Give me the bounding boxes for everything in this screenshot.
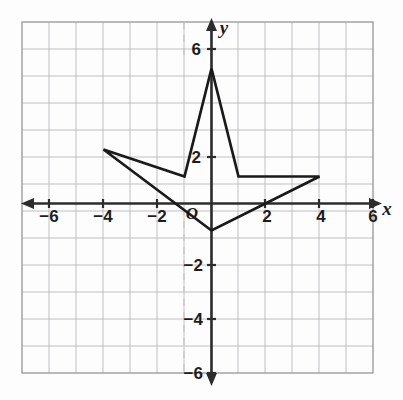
x-axis-tick-labels: −6 −4 −2 2 4 6 [39,207,377,226]
x-axis [21,198,382,209]
x-axis-arrow-left [21,198,34,209]
coordinate-plane-figure: −6 −4 −2 2 4 6 6 2 −2 −4 −6 x y O [0,0,403,400]
x-tick-label-6: 6 [368,207,377,226]
x-tick-label-neg4: −4 [93,207,113,226]
x-tick-label-neg2: −2 [147,207,166,226]
coordinate-plane-svg: −6 −4 −2 2 4 6 6 2 −2 −4 −6 x y O [0,0,403,400]
y-tick-label-2: 2 [192,148,201,167]
y-tick-label-neg4: −4 [184,310,204,329]
x-tick-label-4: 4 [316,207,326,226]
y-axis-arrow-up [206,18,217,31]
x-tick-label-2: 2 [262,207,271,226]
y-tick-label-6: 6 [192,40,201,59]
x-tick-label-neg6: −6 [39,207,58,226]
y-axis-label: y [218,17,229,38]
y-axis-arrow-down [206,373,217,386]
x-axis-label: x [381,198,392,219]
y-tick-label-neg2: −2 [184,256,203,275]
y-tick-label-neg6: −6 [184,364,203,383]
